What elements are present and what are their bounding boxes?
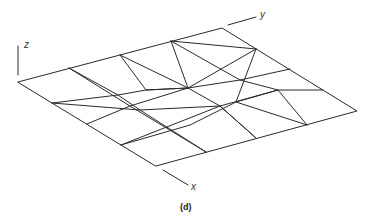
z-axis-label: z [24, 40, 29, 50]
figure-caption: (d) [180, 203, 192, 212]
y-axis-line [228, 17, 256, 25]
diag-7 [236, 49, 307, 125]
mesh-border [18, 28, 357, 166]
x-axis-label: x [191, 182, 196, 192]
mesh-diagram [0, 0, 367, 221]
x-axis-line [163, 170, 188, 185]
y-axis-label: y [260, 10, 265, 20]
grid-line-u2 [87, 69, 290, 124]
grid-line-v3 [171, 41, 307, 125]
diag-6 [220, 90, 278, 106]
